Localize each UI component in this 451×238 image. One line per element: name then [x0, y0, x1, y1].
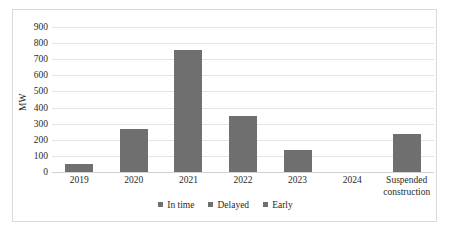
legend-swatch-icon: [263, 202, 268, 207]
bar: [120, 129, 148, 173]
legend-item[interactable]: In time: [158, 200, 194, 210]
y-axis-tick-label: 300: [14, 119, 48, 129]
x-axis-tick-label: 2020: [107, 175, 162, 187]
bar: [174, 50, 202, 172]
x-axis-tick-label-line: 2019: [52, 175, 107, 187]
gridline: [52, 43, 434, 44]
x-axis-tick-label: Suspendedconstruction: [379, 175, 434, 198]
gridline: [52, 27, 434, 28]
chart-legend: In timeDelayedEarly: [0, 200, 451, 210]
y-axis-tick-label: 400: [14, 103, 48, 113]
x-axis-tick-label-line: 2021: [161, 175, 216, 187]
y-axis-tick-label: 100: [14, 151, 48, 161]
legend-swatch-icon: [158, 202, 163, 207]
x-axis-tick-label-line: 2020: [107, 175, 162, 187]
legend-label: In time: [167, 200, 194, 210]
legend-swatch-icon: [208, 202, 213, 207]
bar: [393, 134, 421, 172]
x-axis-tick-label-line: 2023: [270, 175, 325, 187]
legend-label: Early: [272, 200, 293, 210]
x-axis-tick-label: 2021: [161, 175, 216, 187]
axis-baseline: [52, 172, 434, 173]
bar: [65, 164, 93, 172]
y-axis-tick-labels: 9008007006005004003002001000: [12, 27, 48, 172]
gridline: [52, 108, 434, 109]
x-axis-tick-label: 2023: [270, 175, 325, 187]
legend-item[interactable]: Delayed: [208, 200, 249, 210]
legend-item[interactable]: Early: [263, 200, 293, 210]
y-axis-tick-label: 0: [14, 167, 48, 177]
y-axis-tick-label: 800: [14, 38, 48, 48]
bar-chart: MW 9008007006005004003002001000 20192020…: [0, 0, 451, 238]
x-axis-tick-label: 2019: [52, 175, 107, 187]
y-axis-tick-label: 500: [14, 86, 48, 96]
x-axis-tick-label-line: 2022: [216, 175, 271, 187]
gridline: [52, 75, 434, 76]
gridline: [52, 59, 434, 60]
plot-area: [52, 27, 434, 172]
x-axis-tick-label-line: 2024: [325, 175, 380, 187]
bar: [229, 116, 257, 172]
legend-label: Delayed: [217, 200, 249, 210]
x-axis-tick-label-line: Suspended: [379, 175, 434, 187]
y-axis-tick-label: 200: [14, 135, 48, 145]
x-axis-tick-label: 2022: [216, 175, 271, 187]
gridline: [52, 91, 434, 92]
y-axis-tick-label: 900: [14, 22, 48, 32]
y-axis-tick-label: 600: [14, 70, 48, 80]
x-axis-tick-label-line: construction: [379, 187, 434, 199]
x-axis-tick-label: 2024: [325, 175, 380, 187]
y-axis-tick-label: 700: [14, 54, 48, 64]
bar: [284, 150, 312, 172]
